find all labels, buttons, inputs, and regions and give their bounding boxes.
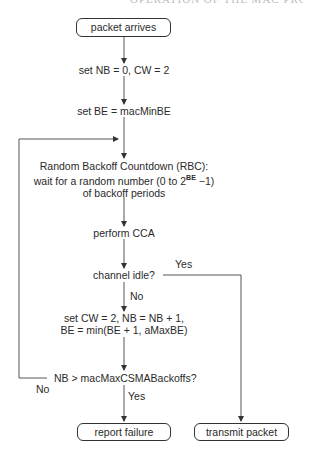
rbc-line3: of backoff periods: [34, 187, 214, 199]
rbc-line2-suffix: −1): [196, 175, 214, 187]
start-node-packet-arrives: packet arrives: [76, 18, 171, 37]
start-label: packet arrives: [91, 21, 156, 33]
end-node-transmit-packet: transmit packet: [194, 423, 289, 441]
step-random-backoff-countdown: Random Backoff Countdown (RBC): wait for…: [34, 160, 214, 199]
rbc-exponent: BE: [186, 174, 196, 181]
step-increment-backoff: set CW = 2, NB = NB + 1, BE = min(BE + 1…: [60, 312, 187, 336]
step-set-be: set BE = macMinBE: [77, 105, 171, 117]
decision1-yes-label: Yes: [175, 258, 192, 270]
decision2-no-label: No: [36, 383, 49, 395]
decision1-no-label: No: [130, 290, 143, 302]
decision2-yes-label: Yes: [128, 390, 145, 402]
step-set-nb-cw: set NB = 0, CW = 2: [79, 64, 169, 76]
report-failure-label: report failure: [95, 426, 154, 438]
step-perform-cca: perform CCA: [93, 227, 154, 239]
decision-max-backoffs: NB > macMaxCSMABackoffs?: [54, 372, 196, 384]
step3-line2: BE = min(BE + 1, aMaxBE): [60, 324, 187, 336]
decision-channel-idle: channel idle?: [93, 269, 155, 281]
rbc-line2: wait for a random number (0 to 2BE −1): [34, 172, 214, 187]
rbc-line1: Random Backoff Countdown (RBC):: [34, 160, 214, 172]
rbc-line2-prefix: wait for a random number (0 to 2: [34, 175, 186, 187]
end-node-report-failure: report failure: [77, 423, 171, 441]
transmit-packet-label: transmit packet: [206, 426, 277, 438]
step3-line1: set CW = 2, NB = NB + 1,: [60, 312, 187, 324]
